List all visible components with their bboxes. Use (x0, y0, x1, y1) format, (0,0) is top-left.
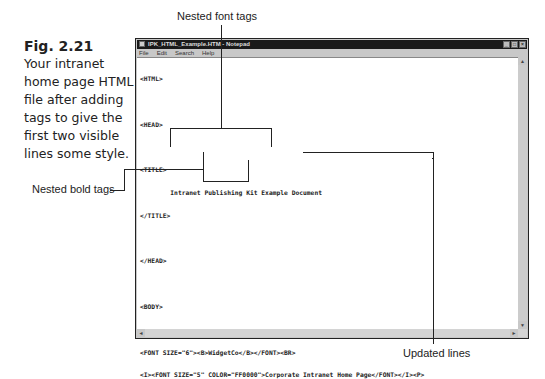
callout-line (303, 152, 433, 153)
code-line (140, 280, 424, 288)
callout-line (110, 190, 124, 191)
window-controls: _ □ × (503, 41, 526, 48)
caption-line: Your intranet (24, 55, 134, 73)
callout-line (203, 181, 249, 182)
vertical-scrollbar[interactable]: ▲ ▼ (518, 57, 527, 329)
callout-line (170, 128, 171, 147)
callout-line (271, 128, 272, 147)
callout-nested-font-tags: Nested font tags (177, 10, 257, 22)
callout-line (124, 169, 204, 170)
maximize-button[interactable]: □ (511, 41, 518, 48)
callout-updated-lines: Updated lines (403, 347, 470, 359)
callout-line (124, 169, 125, 191)
menu-bar: File Edit Search Help (137, 49, 527, 57)
scroll-up-arrow-icon[interactable]: ▲ (518, 57, 527, 65)
minimize-button[interactable]: _ (503, 41, 510, 48)
title-bar[interactable]: IPK_HTML_Example.HTM - Notepad _ □ × (137, 40, 527, 49)
scroll-down-arrow-icon[interactable]: ▼ (518, 321, 527, 329)
caption-line: first two visible (24, 127, 134, 145)
code-line (140, 98, 424, 106)
menu-help[interactable]: Help (202, 49, 214, 57)
code-line: <I><FONT SIZE="5" COLOR="FF0000">Corpora… (140, 371, 424, 379)
figure-caption: Fig. 2.21 Your intranet home page HTML f… (24, 38, 134, 163)
code-line: </HEAD> (140, 257, 424, 265)
close-button[interactable]: × (519, 41, 526, 48)
caption-line: home page HTML (24, 73, 134, 91)
callout-line (203, 152, 204, 182)
code-line: </TITLE> (140, 212, 424, 220)
scroll-left-arrow-icon[interactable]: ◄ (137, 329, 145, 337)
code-line: <FONT SIZE="6"><B>WidgetCo</B></FONT><BR… (140, 349, 424, 357)
horizontal-scrollbar[interactable]: ◄ ► (137, 329, 527, 337)
code-line: <BODY> (140, 303, 424, 311)
caption-line: tags to give the (24, 109, 134, 127)
callout-line (170, 128, 272, 129)
code-line: <TITLE> (140, 166, 424, 174)
code-line (140, 144, 424, 152)
caption-line: lines some style. (24, 145, 134, 163)
notepad-window: IPK_HTML_Example.HTM - Notepad _ □ × Fil… (135, 38, 529, 339)
code-line: Intranet Publishing Kit Example Document (140, 189, 424, 197)
window-title: IPK_HTML_Example.HTM - Notepad (148, 40, 250, 49)
menu-edit[interactable]: Edit (157, 49, 167, 57)
menu-file[interactable]: File (139, 49, 149, 57)
callout-line (221, 25, 222, 129)
notepad-app-icon[interactable] (139, 41, 145, 47)
scroll-right-arrow-icon[interactable]: ► (510, 329, 518, 337)
figure-number: Fig. 2.21 (24, 38, 134, 55)
caption-line: file after adding (24, 91, 134, 109)
callout-line (433, 152, 434, 344)
callout-line (432, 158, 433, 159)
code-line (140, 235, 424, 243)
text-editor[interactable]: <HTML> <HEAD> <TITLE> Intranet Publishin… (137, 57, 518, 329)
callout-line (248, 160, 249, 182)
code-line: <HTML> (140, 75, 424, 83)
menu-search[interactable]: Search (175, 49, 194, 57)
callout-nested-bold-tags: Nested bold tags (32, 183, 115, 195)
